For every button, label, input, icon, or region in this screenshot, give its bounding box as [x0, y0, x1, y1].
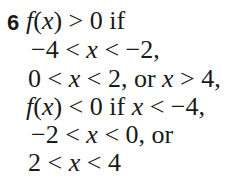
answer-line: 2 < x < 4: [28, 149, 121, 177]
answer-line: −4 < x < −2,: [31, 36, 160, 64]
answer-number: 6: [7, 9, 19, 37]
answer-line: f(x) < 0 if x < −4,: [26, 93, 205, 121]
answer-line: 0 < x < 2, or x > 4,: [28, 65, 221, 93]
answer-line: −2 < x < 0, or: [31, 121, 173, 149]
answer-line: f(x) > 0 if: [26, 7, 125, 35]
answer-block: 6 f(x) > 0 if −4 < x < −2, 0 < x < 2, or…: [0, 0, 252, 181]
